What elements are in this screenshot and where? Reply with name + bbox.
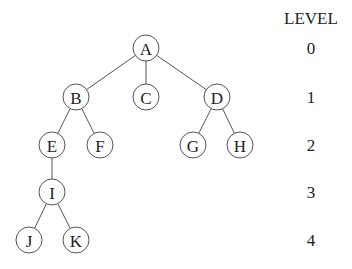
node-label: F [95, 137, 104, 156]
level-column: LEVEL 01234 [284, 9, 338, 250]
level-number-1: 1 [307, 88, 316, 107]
node-label: G [187, 137, 199, 156]
node-h: H [227, 132, 253, 158]
level-number-0: 0 [307, 39, 316, 58]
node-c: C [133, 84, 159, 110]
node-k: K [63, 227, 89, 253]
edge-b-e [58, 109, 70, 134]
node-label: C [140, 89, 151, 108]
node-g: G [180, 132, 206, 158]
node-label: D [211, 89, 223, 108]
level-number-4: 4 [307, 231, 316, 250]
nodes: ABCDEFGHIJK [16, 35, 253, 253]
node-label: A [140, 40, 153, 59]
node-label: H [234, 137, 246, 156]
node-label: J [26, 232, 33, 251]
node-label: K [70, 232, 83, 251]
edge-b-f [82, 109, 94, 134]
node-a: A [133, 35, 159, 61]
edge-d-h [223, 109, 235, 134]
node-e: E [39, 132, 65, 158]
node-label: I [49, 184, 55, 203]
node-b: B [63, 84, 89, 110]
tree-diagram: ABCDEFGHIJK LEVEL 01234 [0, 0, 352, 269]
level-header: LEVEL [284, 9, 338, 28]
edge-i-j [35, 204, 47, 229]
node-label: B [70, 89, 81, 108]
edge-a-b [87, 55, 136, 89]
level-number-2: 2 [307, 136, 316, 155]
node-i: I [39, 179, 65, 205]
edge-d-g [199, 109, 211, 134]
node-j: J [16, 227, 42, 253]
node-d: D [204, 84, 230, 110]
edge-a-d [157, 55, 207, 89]
node-f: F [87, 132, 113, 158]
node-label: E [47, 137, 57, 156]
edge-i-k [58, 204, 70, 229]
level-number-3: 3 [307, 183, 316, 202]
